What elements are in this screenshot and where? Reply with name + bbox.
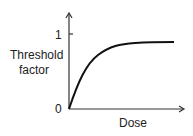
x-axis-label: Dose <box>119 116 147 130</box>
y-axis-label-line2: factor <box>19 63 49 77</box>
y-tick-label-one: 1 <box>55 28 62 42</box>
y-tick-label-zero: 0 <box>55 102 62 116</box>
y-axis-label-line1: Threshold <box>10 48 63 62</box>
threshold-curve <box>69 42 174 109</box>
